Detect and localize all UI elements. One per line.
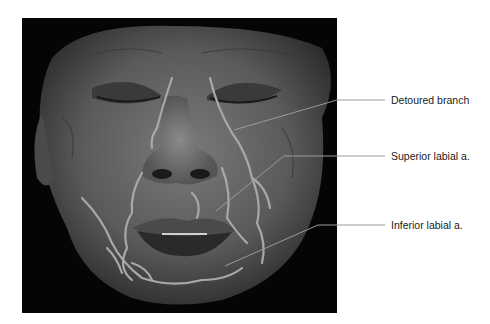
label-superior-labial: Superior labial a. [391,150,470,162]
leader-inferior-labial [225,225,385,266]
leader-detoured-branch [234,100,385,130]
leader-superior-labial [216,156,385,211]
leader-lines [0,0,490,324]
label-inferior-labial: Inferior labial a. [391,219,463,231]
label-detoured-branch: Detoured branch [391,94,469,106]
